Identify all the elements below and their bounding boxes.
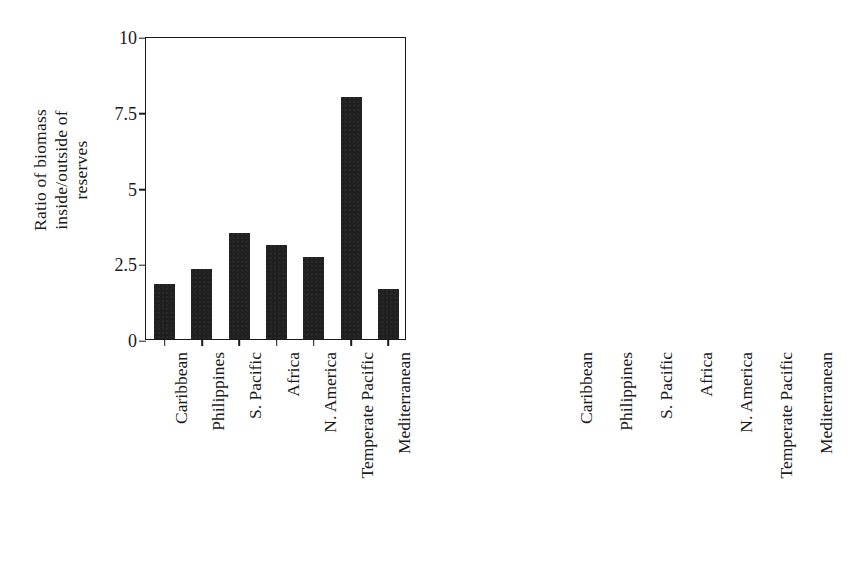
y-tick-label: 2.5 [115,255,147,276]
x-tick-label-text: Caribbean [576,352,597,424]
x-tick-label-text: Africa [283,352,304,397]
x-tick-label: Temperate Pacific [357,225,378,352]
x-tick-label-text: Philippines [616,352,637,431]
x-tick-mark [238,339,240,346]
x-tick-label-text: Mediterranean [816,352,837,454]
chart-panel-left: Ratio of biomass inside/outside of reser… [0,0,432,573]
x-tick-mark [388,339,390,346]
x-tick-label: Africa [696,307,717,352]
x-tick-label: N. America [320,271,341,352]
x-tick-label-text: Temperate Pacific [776,352,797,479]
x-tick-mark [164,339,166,346]
x-tick-label: N. America [736,271,757,352]
x-tick-label: Mediterranean [816,250,837,352]
x-tick-label-text: S. Pacific [245,352,266,419]
x-tick-label-text: Africa [696,352,717,397]
y-tick-label: 5 [128,179,146,200]
chart-panel-right: Percent increase in density 050100150200… [432,0,863,573]
x-tick-label: Temperate Pacific [776,225,797,352]
x-tick-label-text: N. America [320,352,341,433]
x-tick-label: Caribbean [171,280,192,352]
x-tick-label-text: Caribbean [171,352,192,424]
x-tick-label: Caribbean [576,280,597,352]
x-tick-label: Africa [283,307,304,352]
y-tick-label: 10 [119,28,146,49]
x-tick-label-text: N. America [736,352,757,433]
x-tick-label: Philippines [616,273,637,352]
x-tick-label: S. Pacific [656,285,677,352]
x-tick-mark [350,339,352,346]
x-tick-label-text: Philippines [208,352,229,431]
x-tick-label-text: Mediterranean [394,352,415,454]
y-tick-label: 0 [128,331,146,352]
x-tick-mark [201,339,203,346]
x-tick-label: Philippines [208,273,229,352]
figure-container: Ratio of biomass inside/outside of reser… [0,0,863,573]
y-axis-label-left: Ratio of biomass inside/outside of reser… [30,20,92,320]
x-tick-label: S. Pacific [245,285,266,352]
x-tick-label-text: Temperate Pacific [357,352,378,479]
x-tick-label-text: S. Pacific [656,352,677,419]
x-tick-mark [276,339,278,346]
y-tick-label: 7.5 [115,103,147,124]
x-tick-mark [313,339,315,346]
x-tick-label: Mediterranean [394,250,415,352]
